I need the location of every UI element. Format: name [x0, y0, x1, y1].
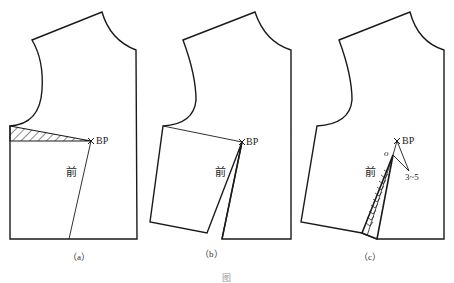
panel-c-point-o-label: o: [384, 149, 389, 158]
panel-b-front-label: 前: [215, 167, 226, 178]
panel-b-upper-line: [163, 126, 242, 142]
panel-b-bodice: [150, 12, 291, 239]
panel-b-caption: （b）: [200, 250, 223, 259]
panel-a-caption: （a）: [68, 253, 90, 262]
panel-c-bp-label: BP: [402, 136, 414, 146]
panel-a-front-label: 前: [66, 167, 77, 178]
panel-c-bp-mark: [394, 138, 400, 144]
panel-b-bp-label: BP: [246, 137, 258, 147]
panel-a-bp-label: BP: [96, 136, 108, 146]
panel-a-bodice: [10, 12, 137, 239]
panel-c-dimension-label: 3~5: [405, 173, 419, 182]
figure-caption: 图: [222, 274, 231, 283]
panel-a-dart-line: [69, 141, 91, 239]
panel-c-caption: （c）: [359, 253, 381, 262]
panel-c-front-label: 前: [365, 167, 376, 178]
panel-b-dart-left: [222, 142, 242, 239]
panel-a-dart-hatched: [10, 126, 91, 141]
